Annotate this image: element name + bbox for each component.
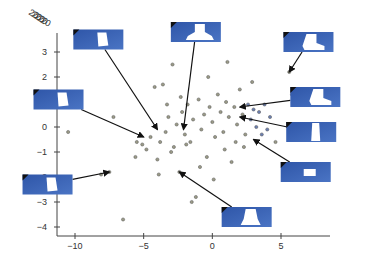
data-point <box>235 123 238 126</box>
data-point <box>234 140 237 143</box>
thumbnail-image <box>286 122 336 142</box>
data-point <box>213 135 216 138</box>
thumbnail-thumb-1 <box>73 30 123 50</box>
data-point <box>164 130 167 133</box>
data-point <box>202 113 205 116</box>
scatter-points <box>67 60 294 221</box>
data-point <box>260 133 263 136</box>
data-point <box>121 218 124 221</box>
data-point <box>194 195 197 198</box>
annotation-arrow <box>240 117 286 127</box>
data-point <box>197 98 200 101</box>
y-tick-label: 3 <box>42 47 47 57</box>
annotation-arrow <box>179 172 231 207</box>
data-point <box>165 103 168 106</box>
x-tick-label: 0 <box>210 241 215 251</box>
annotation-arrow <box>254 140 290 163</box>
data-point <box>255 125 258 128</box>
y-tick-label: −4 <box>37 222 47 232</box>
thumbnail-thumb-3 <box>283 32 333 52</box>
x-tick-label: 5 <box>278 241 283 251</box>
thumbnail-thumb-4 <box>290 87 340 107</box>
data-point <box>251 80 254 83</box>
data-point <box>223 148 226 151</box>
data-point <box>145 148 148 151</box>
data-point <box>181 110 184 113</box>
data-point <box>175 123 178 126</box>
data-point <box>242 145 245 148</box>
data-point <box>135 140 138 143</box>
annotation-thumbnails <box>23 22 341 227</box>
thumbnail-thumb-7 <box>281 162 331 182</box>
data-point <box>233 105 236 108</box>
data-point <box>200 128 203 131</box>
data-point <box>222 130 225 133</box>
data-point <box>159 140 162 143</box>
data-point <box>190 200 193 203</box>
data-point <box>227 115 230 118</box>
data-point <box>226 60 229 63</box>
y-tick-label: 2 <box>42 72 47 82</box>
data-point <box>244 133 247 136</box>
y-tick-label: −3 <box>37 197 47 207</box>
y-tick-label: −1 <box>37 147 47 157</box>
data-point <box>238 88 241 91</box>
data-point <box>216 93 219 96</box>
data-point <box>171 63 174 66</box>
data-point <box>252 108 255 111</box>
data-point <box>153 85 156 88</box>
annotation-arrows <box>73 42 303 207</box>
data-point <box>266 128 269 131</box>
data-point <box>230 160 233 163</box>
thumbnail-thumb-6 <box>286 122 336 142</box>
data-point <box>134 155 137 158</box>
annotation-arrow <box>81 110 143 138</box>
data-point <box>157 173 160 176</box>
data-point <box>208 105 211 108</box>
data-point <box>183 133 186 136</box>
thumbnail-shape-icon <box>311 123 320 141</box>
data-point <box>219 110 222 113</box>
data-point <box>156 158 159 161</box>
data-point <box>205 155 208 158</box>
thumbnail-thumb-9 <box>222 207 272 227</box>
data-point <box>189 140 192 143</box>
data-point <box>211 120 214 123</box>
data-point <box>67 130 70 133</box>
x-tick-label: −10 <box>67 241 82 251</box>
data-point <box>198 165 201 168</box>
data-point <box>192 118 195 121</box>
data-point <box>172 145 175 148</box>
data-point <box>274 140 277 143</box>
x-tick-label: −5 <box>139 241 149 251</box>
data-point <box>241 113 244 116</box>
thumbnail-thumb-2 <box>171 22 221 42</box>
data-point <box>161 83 164 86</box>
data-point <box>167 115 170 118</box>
annotation-arrow <box>73 172 110 179</box>
data-point <box>179 95 182 98</box>
figure-caption <box>60 253 389 263</box>
annotation-arrow <box>183 42 194 130</box>
data-point <box>224 100 227 103</box>
thumbnail-thumb-5 <box>34 90 84 110</box>
annotation-arrow <box>289 52 302 72</box>
data-point <box>185 143 188 146</box>
data-point <box>112 115 115 118</box>
data-point <box>268 115 271 118</box>
y-tick-label: 0 <box>42 122 47 132</box>
data-point <box>170 150 173 153</box>
data-point <box>149 135 152 138</box>
data-point <box>141 143 144 146</box>
data-point <box>257 110 260 113</box>
thumbnail-thumb-8 <box>23 175 73 195</box>
scatter-chart: 20202020203210−1−2−3−4−10−505 <box>0 0 389 267</box>
data-point <box>212 178 215 181</box>
thumbnail-shape-icon <box>304 169 316 176</box>
data-point <box>207 75 210 78</box>
